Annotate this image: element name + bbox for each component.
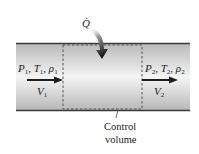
heat-rate-label: Q̇ [82,17,90,29]
inlet-state-label: P1, T1, ρ1 [17,62,58,76]
control-volume-label-line1: Control [104,121,136,132]
outlet-state-label: P2, T2, ρ2 [144,62,185,76]
control-volume-label-line2: volume [105,134,137,145]
flow-control-volume-diagram: Q̇ P1, T1, ρ1 V1 P2, T2, ρ2 V2 Control v… [0,0,199,154]
